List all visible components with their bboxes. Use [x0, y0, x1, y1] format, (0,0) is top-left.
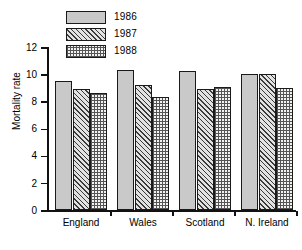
y-axis-title: Mortality rate	[12, 46, 22, 156]
y-tick-0: 0	[41, 210, 47, 212]
bar-1988-scotland	[214, 87, 231, 210]
legend-item-1987: 1987	[66, 26, 137, 42]
plot-area	[48, 47, 296, 210]
bar-1986-n-ireland	[241, 74, 258, 210]
legend-label-1987: 1987	[114, 29, 137, 39]
bar-group-scotland	[179, 47, 231, 210]
bar-1987-england	[73, 89, 90, 210]
y-tick-label-8: 8	[31, 97, 37, 107]
legend-swatch-1987	[66, 28, 106, 41]
bar-1986-scotland	[179, 71, 196, 210]
y-tick-label-0: 0	[31, 206, 37, 216]
legend-item-1986: 1986	[66, 9, 137, 25]
bar-group-wales	[117, 47, 169, 210]
bar-1986-wales	[117, 70, 134, 210]
bar-group-england	[55, 47, 107, 210]
x-tick-1	[110, 211, 112, 216]
bar-1988-wales	[152, 97, 169, 210]
y-tick-10: 10	[41, 74, 47, 76]
x-tick-3	[234, 211, 236, 216]
x-tick-2	[172, 211, 174, 216]
bar-1987-scotland	[197, 89, 214, 210]
y-tick-label-4: 4	[31, 151, 37, 161]
x-axis-label-n-ireland: N. Ireland	[227, 218, 302, 228]
y-tick-4: 4	[41, 156, 47, 158]
bar-chart: 1986 1987 1988 Mortality rate 024681012 …	[0, 0, 302, 250]
bar-group-n-ireland	[241, 47, 293, 210]
y-tick-8: 8	[41, 101, 47, 103]
bar-1987-wales	[135, 85, 152, 210]
legend-swatch-1986	[66, 11, 106, 24]
y-tick-2: 2	[41, 183, 47, 185]
x-tick-end	[296, 211, 298, 216]
y-tick-label-2: 2	[31, 179, 37, 189]
y-tick-12: 12	[41, 47, 47, 49]
bar-1988-n-ireland	[276, 88, 293, 210]
y-tick-label-10: 10	[26, 70, 37, 80]
y-tick-6: 6	[41, 129, 47, 131]
legend-label-1986: 1986	[114, 12, 137, 22]
bar-1988-england	[90, 93, 107, 210]
y-tick-label-12: 12	[26, 43, 37, 53]
y-tick-label-6: 6	[31, 124, 37, 134]
bar-1987-n-ireland	[259, 74, 276, 210]
bar-1986-england	[55, 81, 72, 210]
